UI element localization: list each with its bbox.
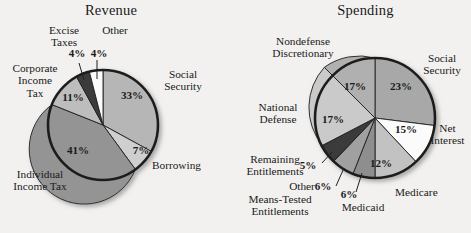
spending-percent-national-defense: 17% bbox=[319, 113, 347, 125]
spending-label-national-defense: National Defense bbox=[247, 101, 309, 126]
spending-percent-medicare: 12% bbox=[367, 157, 395, 169]
revenue-percent-borrowing: 7% bbox=[129, 144, 153, 156]
spending-percent-nondefense-discretionary: 17% bbox=[341, 80, 369, 92]
spending-chart-title: Spending bbox=[248, 2, 471, 19]
revenue-label-excise-taxes: Excise Taxes bbox=[35, 24, 93, 49]
revenue-percent-individual-income-tax: 41% bbox=[64, 144, 92, 156]
spending-percent-remaining-entitlements: 5% bbox=[297, 159, 319, 171]
revenue-percent-corporate-income-tax: 11% bbox=[59, 91, 87, 103]
revenue-label-borrowing: Borrowing bbox=[152, 159, 228, 171]
spending-percent-other-spending: 6% bbox=[312, 180, 334, 192]
revenue-percent-social-security: 33% bbox=[118, 89, 146, 101]
revenue-percent-other: 4% bbox=[87, 47, 111, 59]
spending-label-social-security: Social Security bbox=[413, 52, 471, 77]
two-pie-chart-figure: Revenue Spending Social Security Borrowi… bbox=[0, 0, 471, 233]
revenue-label-social-security: Social Security bbox=[148, 68, 218, 93]
revenue-label-individual-income-tax: Individual Income Tax bbox=[0, 168, 80, 193]
spending-percent-net-interest: 15% bbox=[392, 123, 420, 135]
revenue-label-other: Other bbox=[93, 24, 137, 36]
revenue-chart-title: Revenue bbox=[0, 2, 229, 19]
spending-label-means-tested-entitlements: Means-Tested Entitlements bbox=[238, 193, 322, 218]
spending-label-medicare: Medicare bbox=[395, 186, 457, 198]
revenue-percent-excise-taxes: 4% bbox=[65, 47, 89, 59]
spending-label-nondefense-discretionary: Nondefense Discretionary bbox=[255, 35, 351, 60]
spending-percent-social-security: 23% bbox=[387, 80, 415, 92]
spending-label-medicaid: Medicaid bbox=[334, 201, 392, 213]
spending-label-net-interest: Net Interest bbox=[424, 122, 471, 147]
spending-percent-medicaid: 6% bbox=[338, 188, 360, 200]
